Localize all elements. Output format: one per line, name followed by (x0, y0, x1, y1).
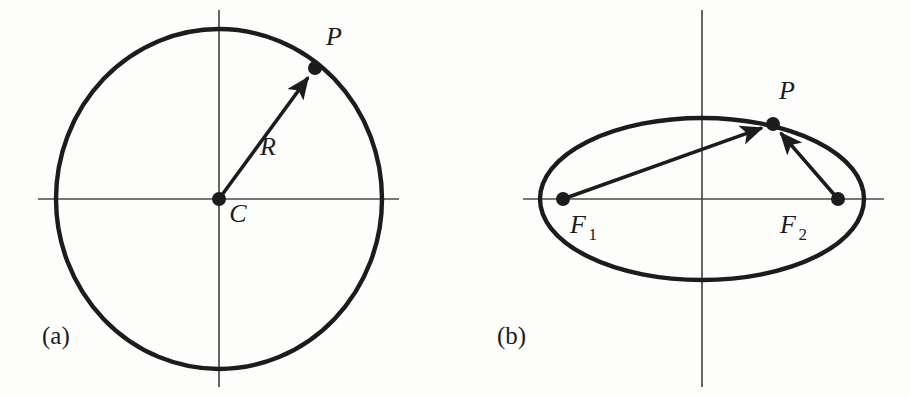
center-point-C-dot (212, 192, 226, 206)
label-P: P (778, 76, 795, 105)
point-P-dot (308, 61, 322, 75)
label-F2: F (779, 210, 797, 239)
panel-caption-a: (a) (42, 322, 70, 350)
label-F2-subscript: 2 (798, 225, 807, 244)
figure-background (0, 0, 910, 396)
focus-F2-dot (831, 192, 845, 206)
figure-canvas: C P R (a) F 1 F 2 P (b) (0, 0, 910, 396)
figure-container: C P R (a) F 1 F 2 P (b) (0, 0, 910, 396)
label-P: P (325, 22, 342, 51)
point-P-dot (766, 117, 780, 131)
label-R: R (259, 132, 276, 161)
label-F1-subscript: 1 (588, 225, 597, 244)
label-C: C (229, 199, 247, 228)
label-F1: F (569, 210, 587, 239)
panel-caption-b: (b) (497, 322, 526, 350)
focus-F1-dot (556, 192, 570, 206)
